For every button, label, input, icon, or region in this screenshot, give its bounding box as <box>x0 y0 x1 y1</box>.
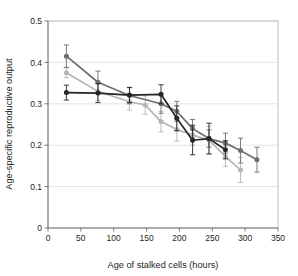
y-tick-label: 0.4 <box>30 58 42 68</box>
x-tick-label: 200 <box>172 233 186 243</box>
y-tick-labels: 00.10.20.30.40.5 <box>30 16 42 233</box>
data-point <box>238 148 243 153</box>
data-point <box>238 168 243 173</box>
data-point <box>207 136 212 141</box>
series-light-gray-series <box>64 68 243 183</box>
data-point <box>64 90 69 95</box>
y-tick-label: 0.1 <box>30 182 42 192</box>
x-tick-label: 300 <box>238 233 252 243</box>
x-tick-label: 350 <box>271 233 285 243</box>
plot-frame <box>48 21 278 228</box>
error-bars-light-gray-series <box>64 68 243 183</box>
plot-border <box>48 21 278 228</box>
data-point <box>223 147 228 152</box>
data-point <box>64 70 69 75</box>
chart-figure: 050100150200250300350 00.10.20.30.40.5 A… <box>0 0 298 276</box>
data-point <box>254 157 259 162</box>
series-black-series <box>64 84 228 159</box>
y-tickmarks <box>45 21 49 228</box>
data-series-group <box>64 45 260 182</box>
error-bars-dark-gray-series <box>64 45 260 172</box>
x-tick-label: 50 <box>76 233 86 243</box>
x-axis-title: Age of stalked cells (hours) <box>108 260 219 270</box>
series-markers <box>64 70 243 172</box>
series-dark-gray-series <box>64 45 260 172</box>
x-tick-labels: 050100150200250300350 <box>46 233 286 243</box>
axis-lines <box>48 21 278 228</box>
series-line <box>66 93 225 150</box>
data-point <box>64 54 69 59</box>
data-point <box>159 119 164 124</box>
y-tick-label: 0.3 <box>30 99 42 109</box>
data-point <box>190 138 195 143</box>
data-point <box>143 103 148 108</box>
series-line <box>66 73 240 170</box>
data-point <box>95 91 100 96</box>
y-tick-label: 0.2 <box>30 140 42 150</box>
x-tick-label: 0 <box>46 233 51 243</box>
y-axis-title: Age-specific reproductive output <box>4 58 14 190</box>
x-tickmarks <box>48 228 278 232</box>
y-tick-label: 0.5 <box>30 16 42 26</box>
x-tick-label: 100 <box>107 233 121 243</box>
data-point <box>159 92 164 97</box>
data-point <box>174 116 179 121</box>
x-tick-label: 250 <box>205 233 219 243</box>
x-tick-label: 150 <box>139 233 153 243</box>
series-line <box>66 56 257 160</box>
data-point <box>127 93 132 98</box>
chart-plot-area: 050100150200250300350 00.10.20.30.40.5 A… <box>0 0 298 276</box>
y-tick-label: 0 <box>37 223 42 233</box>
